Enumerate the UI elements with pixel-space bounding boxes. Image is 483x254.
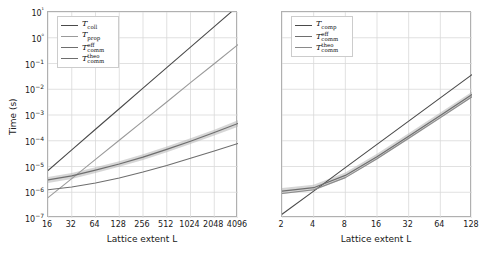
- legend-line-swatch: [61, 47, 78, 48]
- x-tick-label: 8: [330, 220, 358, 229]
- legend-line-swatch: [61, 58, 78, 59]
- legend-entry[interactable]: Tprop: [61, 31, 114, 42]
- legend-line-swatch: [61, 25, 78, 26]
- legend-label: Tcoll: [82, 20, 97, 30]
- y-tick-label: 10−1: [14, 58, 44, 70]
- right-legend: TcompTeffcommTtheocomm: [291, 16, 353, 57]
- right-panel: TcompTeffcommTtheocomm 248163264128 Latt…: [242, 0, 483, 254]
- y-tick-label: 10−6: [14, 186, 44, 198]
- left-legend: TcollTpropTeffcommTtheocomm: [57, 16, 119, 68]
- legend-entry[interactable]: Ttheocomm: [295, 42, 348, 53]
- legend-label: Ttheocomm: [82, 54, 104, 63]
- x-tick-label: 4: [299, 220, 327, 229]
- legend-line-swatch: [295, 25, 312, 26]
- legend-label: Teffcomm: [82, 43, 104, 52]
- right-x-axis-label: Lattice extent L: [281, 234, 471, 244]
- legend-entry[interactable]: Tcomp: [295, 20, 348, 31]
- legend-line-swatch: [295, 47, 312, 48]
- figure-canvas: Time (s) TcollTpropTeffcommTtheocomm 10−…: [0, 0, 483, 254]
- x-tick-label: 128: [457, 220, 483, 229]
- legend-label: Tcomp: [316, 20, 336, 30]
- y-tick-label: 10−2: [14, 83, 44, 95]
- left-panel: Time (s) TcollTpropTeffcommTtheocomm 10−…: [0, 0, 242, 254]
- y-tick-label: 10⁰: [14, 32, 44, 44]
- legend-entry[interactable]: Ttheocomm: [61, 53, 114, 64]
- legend-label: Teffcomm: [316, 32, 338, 41]
- y-tick-label: 10−5: [14, 161, 44, 173]
- x-tick-label: 16: [362, 220, 390, 229]
- legend-entry[interactable]: Teffcomm: [61, 42, 114, 53]
- legend-entry[interactable]: Tcoll: [61, 20, 114, 31]
- left-x-axis-label: Lattice extent L: [47, 234, 237, 244]
- legend-line-swatch: [295, 36, 312, 37]
- legend-label: Tprop: [82, 31, 100, 41]
- y-tick-label: 10−4: [14, 135, 44, 147]
- y-tick-label: 10−3: [14, 109, 44, 121]
- x-tick-label: 64: [425, 220, 453, 229]
- y-tick-label: 10¹: [14, 6, 44, 18]
- legend-line-swatch: [61, 36, 78, 37]
- x-tick-label: 2: [267, 220, 295, 229]
- x-tick-label: 32: [394, 220, 422, 229]
- legend-label: Ttheocomm: [316, 43, 338, 52]
- legend-entry[interactable]: Teffcomm: [295, 31, 348, 42]
